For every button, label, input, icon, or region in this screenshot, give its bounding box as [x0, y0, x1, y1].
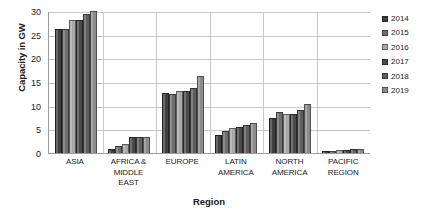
bar[interactable]	[269, 118, 276, 154]
legend-swatch-icon	[382, 59, 388, 65]
bar[interactable]	[357, 149, 364, 153]
x-axis-title: Region	[48, 196, 370, 207]
bar-groups	[49, 12, 370, 153]
bar[interactable]	[55, 29, 62, 153]
bar[interactable]	[143, 137, 150, 153]
bar-group	[263, 12, 317, 153]
bar[interactable]	[297, 110, 304, 153]
bar[interactable]	[229, 128, 236, 153]
bar[interactable]	[129, 137, 136, 153]
legend-item[interactable]: 2014	[382, 14, 409, 23]
bar[interactable]	[115, 146, 122, 153]
legend-item[interactable]: 2019	[382, 86, 409, 95]
bar[interactable]	[183, 91, 190, 153]
bar[interactable]	[122, 144, 129, 153]
y-axis-ticks: 051015202530	[20, 12, 44, 154]
bar[interactable]	[83, 14, 90, 153]
legend-label: 2017	[391, 57, 409, 66]
legend-label: 2019	[391, 86, 409, 95]
x-axis-category-label: EUROPE	[155, 157, 209, 189]
bar[interactable]	[236, 127, 243, 153]
legend-label: 2014	[391, 14, 409, 23]
x-axis-category-label-line: EUROPE	[155, 157, 209, 168]
bar-group	[210, 12, 264, 153]
bar[interactable]	[190, 88, 197, 153]
bar-group	[103, 12, 157, 153]
bar[interactable]	[290, 114, 297, 153]
x-axis-category-label-line: EAST	[102, 178, 156, 189]
bar[interactable]	[350, 149, 357, 153]
legend-swatch-icon	[382, 73, 388, 79]
legend-label: 2015	[391, 28, 409, 37]
bar[interactable]	[243, 125, 250, 153]
bar[interactable]	[62, 29, 69, 153]
legend-swatch-icon	[382, 87, 388, 93]
x-axis-category-label-line: AMERICA	[263, 168, 317, 179]
bar-chart: Capacity in GW 051015202530 ASIAAFRICA &…	[0, 0, 423, 214]
x-axis-category-label-line: REGION	[316, 168, 370, 179]
legend-item[interactable]: 2016	[382, 43, 409, 52]
y-axis-tick-label: 0	[36, 149, 41, 159]
bar[interactable]	[343, 150, 350, 153]
legend-swatch-icon	[382, 16, 388, 22]
x-axis-category-label-line: MIDDLE	[102, 168, 156, 179]
legend-item[interactable]: 2017	[382, 57, 409, 66]
y-axis-tick-label: 10	[31, 102, 41, 112]
bar-group	[49, 12, 103, 153]
x-axis-category-label: NORTHAMERICA	[263, 157, 317, 189]
x-axis-category-label-line: AFRICA &	[102, 157, 156, 168]
y-axis-tick-label: 15	[31, 78, 41, 88]
x-axis-labels: ASIAAFRICA &MIDDLEEASTEUROPELATINAMERICA…	[48, 157, 370, 189]
bar[interactable]	[76, 20, 83, 153]
y-axis-tick-label: 20	[31, 54, 41, 64]
bar[interactable]	[336, 150, 343, 153]
legend-label: 2016	[391, 43, 409, 52]
bar[interactable]	[162, 93, 169, 153]
bar[interactable]	[69, 20, 76, 153]
bar-group	[317, 12, 371, 153]
x-axis-category-label-line: AMERICA	[209, 168, 263, 179]
bar[interactable]	[169, 94, 176, 153]
bar-group	[156, 12, 210, 153]
x-axis-category-label-line: NORTH	[263, 157, 317, 168]
bar[interactable]	[322, 151, 329, 153]
x-axis-category-label: ASIA	[48, 157, 102, 189]
legend-item[interactable]: 2015	[382, 28, 409, 37]
x-axis-category-label: AFRICA &MIDDLEEAST	[102, 157, 156, 189]
bar[interactable]	[222, 131, 229, 153]
bar[interactable]	[197, 76, 204, 153]
x-axis-category-label-line: LATIN	[209, 157, 263, 168]
bar[interactable]	[176, 91, 183, 153]
bar[interactable]	[136, 137, 143, 153]
x-axis-category-label-line: PACIFIC	[316, 157, 370, 168]
x-axis-category-label: LATINAMERICA	[209, 157, 263, 189]
bar[interactable]	[283, 114, 290, 153]
bar[interactable]	[250, 123, 257, 153]
x-axis-category-label: PACIFICREGION	[316, 157, 370, 189]
plot-area	[48, 12, 370, 154]
legend: 201420152016201720182019	[382, 14, 409, 95]
bar[interactable]	[329, 151, 336, 153]
legend-swatch-icon	[382, 44, 388, 50]
bar[interactable]	[90, 11, 97, 153]
y-axis-tick-label: 5	[36, 125, 41, 135]
bar[interactable]	[215, 135, 222, 153]
bar[interactable]	[304, 104, 311, 153]
bar[interactable]	[108, 149, 115, 153]
legend-label: 2018	[391, 72, 409, 81]
y-axis-tick-label: 30	[31, 7, 41, 17]
legend-swatch-icon	[382, 30, 388, 36]
x-axis-category-label-line: ASIA	[48, 157, 102, 168]
y-axis-tick-label: 25	[31, 31, 41, 41]
legend-item[interactable]: 2018	[382, 72, 409, 81]
bar[interactable]	[276, 112, 283, 153]
